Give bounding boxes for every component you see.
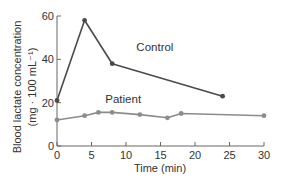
data-point (110, 110, 115, 115)
data-point (179, 111, 184, 116)
y-axis-units: (mg · 100 mL⁻¹) (26, 48, 38, 127)
x-tick-label: 15 (154, 149, 166, 161)
x-tick-label: 20 (189, 149, 201, 161)
x-tick-label: 5 (88, 149, 94, 161)
series-patient: Patient (55, 93, 267, 123)
data-point (165, 115, 170, 120)
series-label: Control (136, 41, 173, 53)
data-point (82, 113, 87, 118)
data-point (82, 18, 87, 23)
y-axis-title: Blood lactate concentration (mg · 100 mL… (11, 21, 38, 154)
data-point (96, 110, 101, 115)
data-point (220, 94, 225, 99)
y-tick-label: 20 (42, 97, 54, 109)
y-axis-label: Blood lactate concentration (11, 21, 23, 154)
data-point (110, 61, 115, 66)
x-tick-label: 0 (54, 149, 60, 161)
series-line (57, 112, 264, 120)
x-axis-label: Time (min) (134, 162, 186, 174)
x-tick-label: 10 (120, 149, 132, 161)
y-tick-label: 60 (42, 10, 54, 22)
data-point (55, 118, 60, 123)
series-layer: ControlPatient (55, 18, 267, 122)
data-point (137, 112, 142, 117)
line-chart: Blood lactate concentration (mg · 100 mL… (0, 0, 282, 187)
x-tick-label: 25 (223, 149, 235, 161)
axes: 0204060051015202530 (42, 10, 270, 161)
series-line (57, 20, 223, 100)
series-control: Control (55, 18, 225, 103)
y-tick-label: 40 (42, 53, 54, 65)
x-tick-label: 30 (258, 149, 270, 161)
data-point (55, 98, 60, 103)
data-point (262, 113, 267, 118)
series-label: Patient (105, 93, 142, 105)
